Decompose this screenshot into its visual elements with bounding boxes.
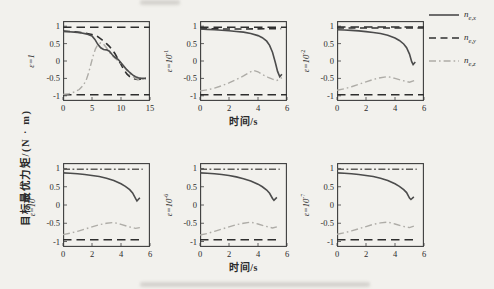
- series-n-e-z-curve: [200, 222, 277, 235]
- legend-label: ne,y: [464, 32, 476, 44]
- y-tick-label: 1: [173, 163, 197, 173]
- x-tick-label: 0: [327, 249, 347, 259]
- y-tick-label: 0.5: [173, 182, 197, 192]
- subplot-eps10-4-plot-area: [63, 163, 150, 247]
- y-tick-label: -1: [310, 91, 334, 101]
- subplot-eps10-2-plot-area: [337, 21, 424, 101]
- x-axis-label: 时间/s: [214, 113, 274, 128]
- y-tick-label: 0: [173, 200, 197, 210]
- epsilon-label-eps10-7: ε=10-7: [300, 163, 312, 247]
- axes-frame: [201, 164, 287, 247]
- axes-frame: [64, 22, 150, 101]
- series-n-e-z-curve: [337, 77, 415, 91]
- legend-item: ne,y: [429, 31, 476, 45]
- x-tick-label: 6: [414, 103, 434, 113]
- y-tick-label: 0.5: [173, 39, 197, 49]
- x-tick-label: 4: [385, 103, 405, 113]
- subplot-eps10-6-plot-area: [200, 163, 287, 247]
- epsilon-label-eps10-2: ε=10-2: [300, 21, 312, 101]
- y-tick-label: -0.5: [310, 73, 334, 83]
- x-tick-label: 2: [356, 249, 376, 259]
- x-tick-label: 4: [248, 249, 268, 259]
- series-n-e-x-curve: [63, 173, 140, 201]
- y-tick-label: 1: [36, 163, 60, 173]
- y-tick-label: -0.5: [36, 73, 60, 83]
- x-tick-label: 0: [53, 103, 73, 113]
- series-n-e-z-curve: [63, 43, 146, 94]
- x-tick-label: 6: [277, 249, 297, 259]
- x-tick-label: 0: [190, 249, 210, 259]
- y-tick-label: 0: [310, 56, 334, 66]
- y-tick-label: -1: [36, 91, 60, 101]
- subplot-eps1-plot-area: [63, 21, 150, 101]
- series-n-e-z-curve: [337, 222, 414, 234]
- epsilon-label-eps10-4: ε=10-4: [26, 163, 38, 247]
- x-tick-label: 0: [53, 249, 73, 259]
- y-tick-label: 0: [310, 200, 334, 210]
- y-tick-label: -0.5: [173, 218, 197, 228]
- legend-dashdot-line-sample: [429, 56, 459, 66]
- y-tick-label: 0: [173, 56, 197, 66]
- series-n-e-x-curve: [337, 173, 414, 200]
- y-tick-label: 0.5: [36, 39, 60, 49]
- legend-item: ne,z: [429, 54, 476, 68]
- x-tick-label: 2: [356, 103, 376, 113]
- y-tick-label: -0.5: [173, 73, 197, 83]
- y-tick-label: -1: [310, 237, 334, 247]
- subplot-eps10-1-plot-area: [200, 21, 287, 101]
- legend-dashed-line-sample: [429, 33, 459, 43]
- series-n-e-z-curve: [63, 223, 140, 235]
- scan-smudge-top: [140, 0, 180, 5]
- x-axis-label: 时间/s: [214, 259, 274, 274]
- x-tick-label: 2: [82, 249, 102, 259]
- axes-frame: [338, 164, 424, 247]
- figure-optimal-torque-subplots: 目标最优力矩/(N · m) ne,xne,yne,z 10.50-0.5-10…: [0, 0, 494, 289]
- legend-label: ne,z: [464, 55, 476, 67]
- legend-solid-line-sample: [429, 10, 459, 20]
- y-tick-label: 1: [310, 21, 334, 31]
- x-tick-label: 4: [385, 249, 405, 259]
- x-tick-label: 6: [140, 249, 160, 259]
- y-tick-label: -1: [36, 237, 60, 247]
- scan-smudge-caption: [140, 282, 370, 287]
- legend-item: ne,x: [429, 8, 476, 22]
- axes-frame: [201, 22, 287, 101]
- axes-frame: [64, 164, 150, 247]
- legend-label: ne,x: [464, 9, 476, 21]
- series-n-e-x-curve: [63, 31, 146, 78]
- epsilon-label-eps10-1: ε=10-1: [163, 21, 175, 101]
- series-n-e-x-curve: [337, 30, 415, 65]
- y-tick-label: 0.5: [310, 39, 334, 49]
- y-tick-label: 1: [310, 163, 334, 173]
- x-tick-label: 4: [248, 103, 268, 113]
- y-tick-label: -1: [173, 91, 197, 101]
- subplot-eps10-7-plot-area: [337, 163, 424, 247]
- x-tick-label: 2: [219, 103, 239, 113]
- series-n-e-y-curve: [63, 31, 146, 79]
- legend: ne,xne,yne,z: [429, 8, 493, 80]
- y-tick-label: -0.5: [36, 218, 60, 228]
- series-n-e-z-curve: [200, 70, 282, 91]
- x-tick-label: 15: [140, 103, 160, 113]
- y-tick-label: 1: [173, 21, 197, 31]
- y-tick-label: 0.5: [36, 182, 60, 192]
- y-tick-label: 0: [36, 56, 60, 66]
- series-n-e-x-curve: [200, 173, 277, 200]
- x-tick-label: 10: [111, 103, 131, 113]
- epsilon-label-eps10-6: ε=10-6: [163, 163, 175, 247]
- y-tick-label: 0: [36, 200, 60, 210]
- y-tick-label: -1: [173, 237, 197, 247]
- x-tick-label: 6: [277, 103, 297, 113]
- y-tick-label: 1: [36, 21, 60, 31]
- series-n-e-x-curve: [200, 29, 282, 77]
- x-tick-label: 6: [414, 249, 434, 259]
- x-tick-label: 2: [219, 249, 239, 259]
- x-tick-label: 5: [82, 103, 102, 113]
- x-tick-label: 0: [327, 103, 347, 113]
- x-tick-label: 4: [111, 249, 131, 259]
- y-tick-label: -0.5: [310, 218, 334, 228]
- epsilon-label-eps1: ε=1: [26, 21, 38, 101]
- x-tick-label: 0: [190, 103, 210, 113]
- y-tick-label: 0.5: [310, 182, 334, 192]
